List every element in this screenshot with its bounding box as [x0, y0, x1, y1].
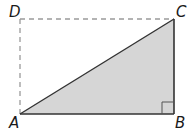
label-c: C: [176, 3, 187, 21]
label-a: A: [8, 114, 19, 131]
label-b: B: [175, 114, 185, 131]
diagram: D C A B: [0, 0, 190, 131]
label-d: D: [9, 3, 21, 21]
